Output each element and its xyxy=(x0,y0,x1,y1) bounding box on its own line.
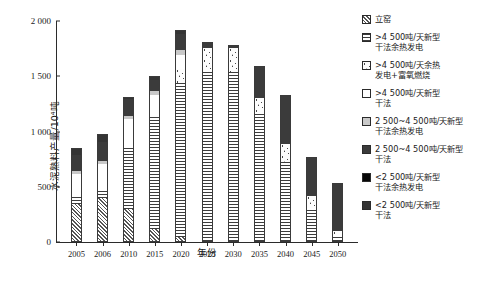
bar-segment-gt4500-waste-heat-oxygen-combustion xyxy=(228,48,239,72)
y-tick-mark xyxy=(56,242,60,243)
chart-legend: 立窑>4 500吨/天新型干法余热发电>4 500吨/天余热发电+富氧燃烧>4 … xyxy=(362,14,480,228)
x-tick-mark xyxy=(129,242,130,246)
x-tick-mark xyxy=(181,242,182,246)
bar-segment-gt4500-waste-heat-oxygen-combustion xyxy=(175,69,186,83)
plot-area: 05001 0001 5002 000 20052006201020152020… xyxy=(56,21,358,243)
y-tick-mark xyxy=(56,21,60,22)
bar-2030 xyxy=(228,45,239,242)
legend-item-label: >4 500吨/天新型干法余热发电 xyxy=(375,32,440,53)
y-tick-label: 500 xyxy=(38,182,57,192)
legend-item-label: >4 500吨/天新型干法 xyxy=(375,88,440,109)
x-tick-label: 2020 xyxy=(172,249,189,259)
bar-segment-lt2500-new-dry xyxy=(97,134,108,142)
bar-segment-gt4500-new-dry xyxy=(97,164,108,191)
x-tick-label: 2005 xyxy=(68,249,85,259)
bar-segment-gt4500-dry-waste-heat-power xyxy=(71,197,82,204)
legend-item-label: <2 500吨/天新型干法余热发电 xyxy=(375,172,440,193)
legend-item-2500-4500-dry-waste-heat-power[interactable]: 2 500~4 500吨/天新型干法余热发电 xyxy=(362,116,480,137)
legend-item-label: 2 500~4 500吨/天新型干法余热发电 xyxy=(375,116,464,137)
bar-segment-gt4500-dry-waste-heat-power xyxy=(280,162,291,242)
bar-segment-2500-4500-new-dry xyxy=(175,34,186,50)
x-tick-label: 2030 xyxy=(225,249,242,259)
x-tick-label: 2050 xyxy=(329,249,346,259)
bar-segment-gt4500-dry-waste-heat-power xyxy=(332,235,343,242)
legend-swatch-icon xyxy=(362,117,371,126)
bar-2040 xyxy=(280,95,291,242)
x-tick-label: 2045 xyxy=(303,249,320,259)
x-tick-mark xyxy=(76,242,77,246)
bar-2020 xyxy=(175,30,186,242)
bar-segment-gt4500-dry-waste-heat-power xyxy=(228,72,239,242)
legend-item-gt4500-waste-heat-oxygen-combustion[interactable]: >4 500吨/天余热发电+富氧燃烧 xyxy=(362,60,480,81)
bar-segment-gt4500-new-dry xyxy=(71,174,82,198)
y-tick-label: 1 500 xyxy=(31,71,56,81)
legend-item-lt2500-dry-waste-heat-power[interactable]: <2 500吨/天新型干法余热发电 xyxy=(362,172,480,193)
chart-figure: 水泥熟料产量/10⁴吨 年份 05001 0001 5002 000 20052… xyxy=(0,0,483,292)
bar-segment-gt4500-waste-heat-oxygen-combustion xyxy=(306,196,317,208)
legend-swatch-icon xyxy=(362,89,371,98)
x-tick-label: 2035 xyxy=(251,249,268,259)
y-tick-label: 0 xyxy=(47,237,57,247)
x-tick-mark xyxy=(207,242,208,246)
x-tick-label: 2040 xyxy=(277,249,294,259)
bar-segment-shaft-kiln xyxy=(97,198,108,242)
legend-swatch-icon xyxy=(362,61,371,70)
legend-item-shaft-kiln[interactable]: 立窑 xyxy=(362,14,480,25)
y-tick-mark xyxy=(56,76,60,77)
legend-item-label: <2 500吨/天新型干法 xyxy=(375,200,440,221)
y-tick-label: 1 000 xyxy=(31,127,56,137)
legend-item-label: 立窑 xyxy=(375,14,391,25)
bar-segment-shaft-kiln xyxy=(71,204,82,242)
bar-segment-gt4500-waste-heat-oxygen-combustion xyxy=(202,48,213,70)
bar-segment-gt4500-dry-waste-heat-power xyxy=(202,70,213,242)
legend-item-label: >4 500吨/天余热发电+富氧燃烧 xyxy=(375,60,440,81)
x-tick-label: 2010 xyxy=(120,249,137,259)
bar-segment-gt4500-dry-waste-heat-power xyxy=(97,190,108,198)
x-tick-mark xyxy=(233,242,234,246)
bar-segment-gt4500-waste-heat-oxygen-combustion xyxy=(254,98,265,113)
legend-swatch-icon xyxy=(362,201,371,210)
bar-segment-2500-4500-new-dry xyxy=(332,183,343,231)
bar-segment-lt2500-new-dry xyxy=(71,148,82,155)
x-tick-mark xyxy=(259,242,260,246)
bar-2015 xyxy=(149,76,160,242)
legend-swatch-icon xyxy=(362,33,371,42)
bar-2006 xyxy=(97,134,108,242)
bar-segment-2500-4500-new-dry xyxy=(254,66,265,98)
x-tick-mark xyxy=(155,242,156,246)
bar-segment-gt4500-waste-heat-oxygen-combustion xyxy=(280,144,291,162)
bar-segment-2500-4500-new-dry xyxy=(71,155,82,172)
legend-item-gt4500-new-dry[interactable]: >4 500吨/天新型干法 xyxy=(362,88,480,109)
x-tick-label: 2015 xyxy=(146,249,163,259)
y-tick-mark xyxy=(56,131,60,132)
bar-segment-2500-4500-new-dry xyxy=(280,95,291,145)
x-tick-mark xyxy=(338,242,339,246)
legend-item-lt2500-new-dry[interactable]: <2 500吨/天新型干法 xyxy=(362,200,480,221)
legend-swatch-icon xyxy=(362,173,371,182)
bar-segment-gt4500-dry-waste-heat-power xyxy=(254,113,265,242)
bar-segment-gt4500-dry-waste-heat-power xyxy=(149,116,160,229)
bar-2010 xyxy=(123,97,134,242)
bar-segment-2500-4500-new-dry xyxy=(123,99,134,116)
x-tick-mark xyxy=(312,242,313,246)
legend-swatch-icon xyxy=(362,145,371,154)
bar-2005 xyxy=(71,148,82,242)
bar-segment-gt4500-new-dry xyxy=(175,55,186,69)
y-tick-label: 2 000 xyxy=(31,16,56,26)
bar-2035 xyxy=(254,66,265,242)
bar-2025 xyxy=(202,42,213,242)
x-tick-mark xyxy=(103,242,104,246)
x-tick-label: 2006 xyxy=(94,249,111,259)
bar-segment-shaft-kiln xyxy=(149,229,160,242)
bar-segment-shaft-kiln xyxy=(175,237,186,242)
y-axis-line xyxy=(56,21,57,243)
bar-segment-2500-4500-new-dry xyxy=(97,142,108,161)
legend-swatch-icon xyxy=(362,15,371,24)
legend-item-2500-4500-new-dry[interactable]: 2 500~4 500吨/天新型干法 xyxy=(362,144,480,165)
bar-segment-gt4500-dry-waste-heat-power xyxy=(175,83,186,237)
bar-segment-gt4500-new-dry xyxy=(123,119,134,147)
bar-segment-gt4500-dry-waste-heat-power xyxy=(306,208,317,242)
bar-segment-shaft-kiln xyxy=(123,209,134,242)
bar-2050 xyxy=(332,183,343,242)
legend-item-gt4500-dry-waste-heat-power[interactable]: >4 500吨/天新型干法余热发电 xyxy=(362,32,480,53)
